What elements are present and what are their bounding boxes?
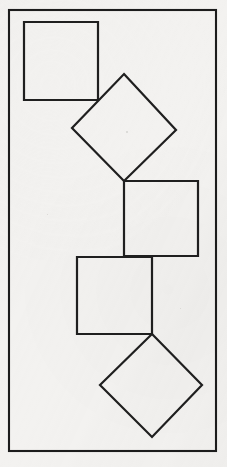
- drawing-canvas: [0, 0, 227, 467]
- shape-chain-figure: [0, 0, 227, 467]
